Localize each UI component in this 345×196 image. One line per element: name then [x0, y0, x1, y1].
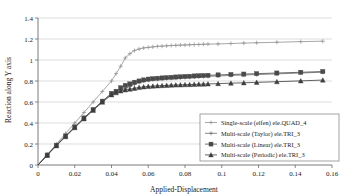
marker-square: [128, 82, 132, 86]
marker-square: [132, 80, 136, 84]
marker-square: [174, 75, 178, 79]
marker-square: [209, 142, 213, 146]
marker-square: [229, 72, 233, 76]
y-tick-label: 0.6: [24, 99, 33, 107]
legend-label: Multi-scale (Taylor) ele.TRI_3: [221, 130, 300, 138]
legend-label: Multi-scale (Periodic) ele.TRI_3: [221, 151, 305, 159]
y-axis-title: Reaction along Y axis: [4, 57, 13, 123]
marker-square: [169, 75, 173, 79]
marker-square: [206, 73, 210, 77]
marker-square: [151, 77, 155, 81]
legend: Single-scale (elfen) ele.QUAD_4Multi-sca…: [200, 114, 339, 161]
y-tick-label: 1.2: [24, 36, 33, 44]
marker-square: [155, 76, 159, 80]
marker-square: [255, 72, 259, 76]
x-tick-label: 0.08: [179, 170, 192, 178]
marker-square: [187, 74, 191, 78]
x-tick-label: 0.04: [105, 170, 118, 178]
marker-square: [137, 79, 141, 83]
x-axis-title: Applied-Displacement: [150, 185, 219, 194]
y-tick-label: 0.8: [24, 78, 33, 86]
y-tick-label: 0: [30, 162, 34, 170]
x-tick-label: 0.06: [142, 170, 155, 178]
marker-square: [142, 78, 146, 82]
plot-background: [0, 0, 345, 196]
x-tick-label: 0.02: [69, 170, 82, 178]
marker-square: [178, 75, 182, 79]
marker-square: [160, 76, 164, 80]
y-tick-label: 1.4: [24, 15, 33, 23]
chart-container: 00.020.040.060.080.10.120.140.16 00.20.4…: [0, 0, 345, 196]
marker-square: [216, 73, 220, 77]
marker-square: [299, 70, 303, 74]
marker-square: [242, 72, 246, 76]
x-tick-label: 0.1: [217, 170, 226, 178]
marker-square: [146, 77, 150, 81]
y-tick-label: 1: [30, 57, 34, 65]
y-tick-label: 0.2: [24, 141, 33, 149]
marker-square: [201, 73, 205, 77]
x-tick-label: 0: [36, 170, 40, 178]
marker-square: [197, 74, 201, 78]
reaction-displacement-chart: 00.020.040.060.080.10.120.140.16 00.20.4…: [0, 0, 345, 196]
y-tick-label: 0.4: [24, 120, 33, 128]
marker-square: [275, 71, 279, 75]
legend-item-0[interactable]: Single-scale (elfen) ele.QUAD_4: [205, 119, 307, 127]
marker-square: [183, 74, 187, 78]
legend-label: Multi-scale (Linear) ele.TRI_3: [221, 141, 300, 149]
marker-square: [123, 83, 127, 87]
marker-square: [165, 76, 169, 80]
x-tick-label: 0.14: [289, 170, 302, 178]
x-tick-label: 0.12: [252, 170, 265, 178]
x-tick-label: 0.16: [326, 170, 339, 178]
marker-square: [321, 69, 325, 73]
legend-label: Single-scale (elfen) ele.QUAD_4: [221, 119, 307, 127]
marker-square: [192, 74, 196, 78]
